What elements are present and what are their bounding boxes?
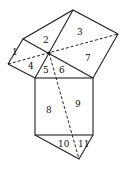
label-7: 7 [85,53,91,63]
label-11: 11 [78,139,89,149]
dissection-diagram: 1 2 3 4 5 6 7 8 9 10 11 [0,0,123,169]
label-5: 5 [43,65,49,75]
label-4: 4 [28,61,34,71]
label-8: 8 [46,105,52,115]
label-1: 1 [12,47,18,57]
label-9: 9 [75,99,81,109]
label-3: 3 [77,27,83,37]
solid-edges [8,10,118,159]
label-10: 10 [58,139,70,149]
label-6: 6 [59,65,65,75]
label-2: 2 [43,35,49,45]
center-point [47,51,50,54]
piece-labels: 1 2 3 4 5 6 7 8 9 10 11 [12,27,91,149]
